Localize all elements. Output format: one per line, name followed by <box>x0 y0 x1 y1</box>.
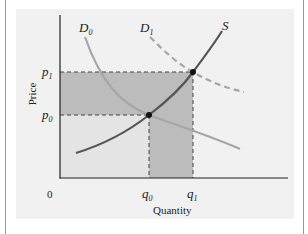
x-axis-label: Quantity <box>153 205 192 216</box>
origin-label: 0 <box>47 189 53 200</box>
q0-label: q0 <box>142 187 153 203</box>
p1-label: p1 <box>42 65 53 81</box>
y-axis-label: Price <box>26 74 38 114</box>
d0-label: D0 <box>79 21 92 37</box>
new-equilibrium-point <box>190 69 196 75</box>
p0-label: p0 <box>42 108 53 124</box>
initial-equilibrium-point <box>146 112 152 118</box>
d1-label: D1 <box>140 21 153 37</box>
q1-label: q1 <box>187 187 198 203</box>
s-label: S <box>222 19 229 32</box>
